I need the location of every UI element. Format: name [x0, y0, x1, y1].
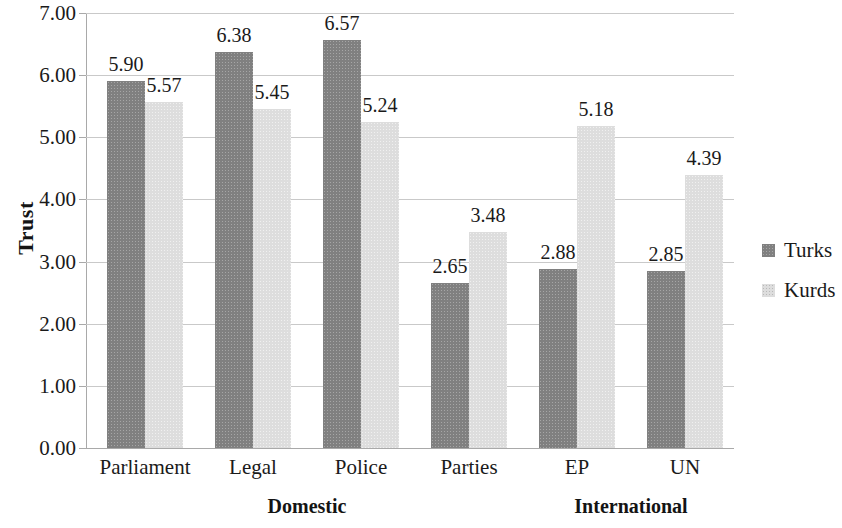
bar-turks-parties: [431, 283, 469, 448]
gridline: [86, 75, 734, 76]
x-axis-label-parliament: Parliament: [100, 455, 191, 480]
y-axis-tick-mark: [79, 324, 86, 325]
bar-value-label: 2.65: [433, 255, 468, 278]
bar-value-label: 5.18: [579, 98, 614, 121]
bar-kurds-parliament: [145, 102, 183, 448]
legend-item-turks[interactable]: Turks: [762, 230, 835, 270]
y-axis-tick-label: 4.00: [6, 187, 76, 212]
bar-value-label: 2.88: [541, 241, 576, 264]
x-axis-label-legal: Legal: [229, 455, 277, 480]
legend-item-kurds[interactable]: Kurds: [762, 270, 835, 310]
chart-legend: Turks Kurds: [762, 230, 835, 310]
x-axis-group-label-domestic: Domestic: [268, 495, 347, 518]
y-axis-tick-label: 1.00: [6, 373, 76, 398]
bar-kurds-police: [361, 122, 399, 448]
x-axis-label-parties: Parties: [440, 455, 497, 480]
gridline: [86, 13, 734, 14]
y-axis-tick-label: 5.00: [6, 125, 76, 150]
bar-value-label: 5.57: [147, 74, 182, 97]
gridline: [86, 137, 734, 138]
legend-label-turks: Turks: [784, 238, 832, 263]
legend-swatch-kurds-icon: [762, 284, 775, 297]
bar-turks-police: [323, 40, 361, 448]
bar-value-label: 6.38: [217, 24, 252, 47]
x-axis-group-label-international: International: [574, 495, 687, 518]
x-axis-label-un: UN: [670, 455, 700, 480]
bar-turks-ep: [539, 269, 577, 448]
plot-area: 5.905.576.385.456.575.242.653.482.885.18…: [86, 13, 734, 448]
bar-kurds-ep: [577, 126, 615, 448]
legend-swatch-turks-icon: [762, 244, 775, 257]
y-axis-tick-label: 0.00: [6, 436, 76, 461]
bar-value-label: 5.24: [363, 94, 398, 117]
bar-turks-parliament: [107, 81, 145, 448]
y-axis-tick-mark: [79, 448, 86, 449]
gridline: [86, 262, 734, 263]
y-axis-tick-label: 3.00: [6, 249, 76, 274]
x-axis-label-police: Police: [335, 455, 388, 480]
bar-turks-un: [647, 271, 685, 448]
y-axis-tick-mark: [79, 137, 86, 138]
bar-value-label: 4.39: [687, 147, 722, 170]
x-axis-label-ep: EP: [565, 455, 590, 480]
gridline: [86, 448, 734, 449]
bar-turks-legal: [215, 52, 253, 448]
y-axis-tick-mark: [79, 262, 86, 263]
legend-label-kurds: Kurds: [784, 278, 835, 303]
y-axis-tick-mark: [79, 75, 86, 76]
bar-value-label: 5.90: [109, 53, 144, 76]
y-axis-tick-mark: [79, 13, 86, 14]
bar-value-label: 6.57: [325, 12, 360, 35]
y-axis-tick-label: 2.00: [6, 311, 76, 336]
bar-chart: Trust 0.001.002.003.004.005.006.007.00 5…: [0, 0, 842, 528]
bar-value-label: 5.45: [255, 81, 290, 104]
bar-value-label: 3.48: [471, 204, 506, 227]
gridline: [86, 386, 734, 387]
y-axis-tick-label: 7.00: [6, 1, 76, 26]
bar-kurds-legal: [253, 109, 291, 448]
y-axis-tick-label: 6.00: [6, 63, 76, 88]
y-axis-tick-mark: [79, 199, 86, 200]
gridline: [86, 324, 734, 325]
gridline: [86, 199, 734, 200]
y-axis-tick-mark: [79, 386, 86, 387]
bar-kurds-parties: [469, 232, 507, 448]
bar-kurds-un: [685, 175, 723, 448]
bar-value-label: 2.85: [649, 243, 684, 266]
